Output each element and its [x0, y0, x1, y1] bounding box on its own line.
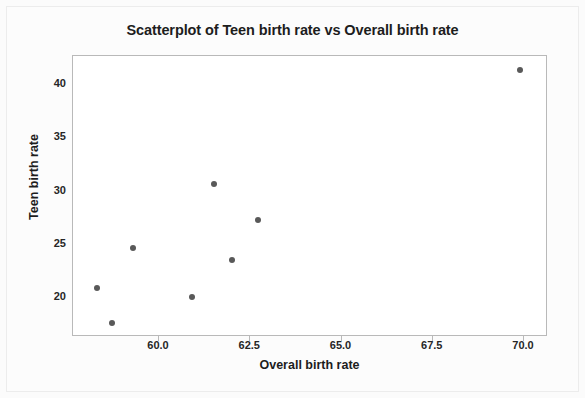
- x-tick-mark: [341, 336, 342, 341]
- x-tick-mark: [158, 336, 159, 341]
- y-axis-title: Teen birth rate: [27, 97, 41, 257]
- plot-frame: [72, 55, 547, 336]
- data-point: [229, 257, 235, 263]
- data-point: [94, 285, 100, 291]
- chart-title: Scatterplot of Teen birth rate vs Overal…: [0, 22, 585, 38]
- x-tick-mark: [432, 336, 433, 341]
- data-point: [130, 245, 136, 251]
- data-point: [517, 67, 523, 73]
- data-point: [109, 320, 115, 326]
- x-tick-mark: [249, 336, 250, 341]
- data-point: [211, 181, 217, 187]
- scatterplot-figure: Scatterplot of Teen birth rate vs Overal…: [0, 0, 585, 398]
- x-axis-title: Overall birth rate: [72, 358, 547, 372]
- data-point: [189, 294, 195, 300]
- data-point: [255, 217, 261, 223]
- y-tick-label: 40: [26, 77, 66, 89]
- plot-area: [73, 56, 546, 335]
- y-tick-label: 20: [26, 290, 66, 302]
- x-tick-mark: [523, 336, 524, 341]
